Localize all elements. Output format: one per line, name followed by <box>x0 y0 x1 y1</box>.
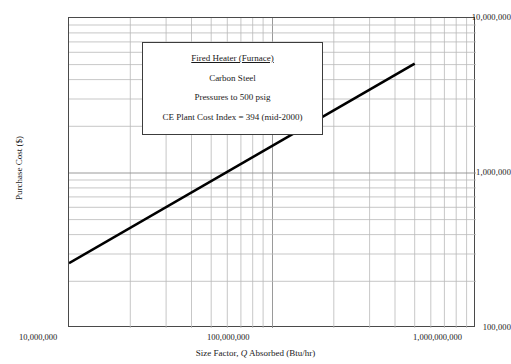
annotation-line-material: Carbon Steel <box>209 74 256 84</box>
y-tick-label-10000000: 10,000,000 <box>447 13 511 22</box>
annotation-line-title: Fired Heater (Furnace) <box>191 54 273 64</box>
x-axis-title-pre: Size Factor, <box>196 348 241 358</box>
plot-area: Fired Heater (Furnace) Carbon Steel Pres… <box>68 17 475 327</box>
annotation-line-cost-index: CE Plant Cost Index = 394 (mid-2000) <box>162 113 302 123</box>
x-tick-label-1000000000: 1,000,000,000 <box>413 333 462 342</box>
x-axis-title: Size Factor, Q Absorbed (Btu/hr) <box>0 348 511 358</box>
annotation-spec-box: Fired Heater (Furnace) Carbon Steel Pres… <box>142 42 323 135</box>
x-tick-label-100000000: 100,000,000 <box>207 333 250 342</box>
x-axis-title-post: Absorbed (Btu/hr) <box>247 348 315 358</box>
x-tick-label-10000000: 10,000,000 <box>19 333 57 342</box>
figure-fired-heater-cost-chart: Fired Heater (Furnace) Carbon Steel Pres… <box>0 0 511 364</box>
y-tick-label-1000000: 1,000,000 <box>447 168 511 177</box>
annotation-line-pressure: Pressures to 500 psig <box>194 93 270 103</box>
y-axis-title: Purchase Cost ($) <box>14 108 24 228</box>
y-tick-label-100000: 100,000 <box>447 323 511 332</box>
